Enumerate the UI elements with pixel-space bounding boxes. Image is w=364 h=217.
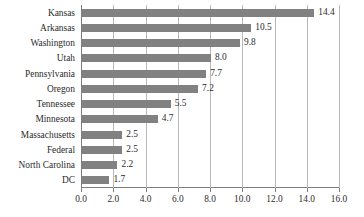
category-label: Arkansas bbox=[0, 23, 75, 33]
category-label: Pennsylvania bbox=[0, 69, 75, 79]
bar bbox=[82, 9, 314, 17]
bar-row: 7.2 bbox=[82, 85, 340, 93]
category-label: Minnesota bbox=[0, 114, 75, 124]
bar-value-label: 2.5 bbox=[126, 129, 138, 140]
bar-row: 1.7 bbox=[82, 176, 340, 184]
bar-value-label: 9.8 bbox=[244, 37, 256, 48]
bar-value-label: 4.7 bbox=[162, 113, 174, 124]
plot-area: 0.02.04.06.08.010.012.014.016.0 14.410.5… bbox=[81, 5, 339, 188]
x-axis-tick bbox=[242, 188, 243, 192]
category-label: North Carolina bbox=[0, 160, 75, 170]
bar-value-label: 7.2 bbox=[202, 83, 214, 94]
bar-row: 10.5 bbox=[82, 24, 340, 32]
x-axis-tick bbox=[178, 188, 179, 192]
bar-row: 4.7 bbox=[82, 115, 340, 123]
bar-value-label: 8.0 bbox=[215, 52, 227, 63]
x-axis-tick bbox=[210, 188, 211, 192]
bar bbox=[82, 131, 122, 139]
bar-value-label: 2.2 bbox=[121, 159, 133, 170]
category-label: Federal bbox=[0, 145, 75, 155]
category-label: Washington bbox=[0, 38, 75, 48]
bar bbox=[82, 85, 198, 93]
x-axis-tick bbox=[339, 188, 340, 192]
bar-chart: KansasArkansasWashingtonUtahPennsylvania… bbox=[0, 0, 364, 217]
bar-row: 7.7 bbox=[82, 70, 340, 78]
x-axis-tick bbox=[146, 188, 147, 192]
bar bbox=[82, 176, 109, 184]
bar bbox=[82, 146, 122, 154]
bar-row: 5.5 bbox=[82, 100, 340, 108]
bar-row: 9.8 bbox=[82, 39, 340, 47]
bar-row: 2.5 bbox=[82, 146, 340, 154]
bar-row: 8.0 bbox=[82, 54, 340, 62]
bar-value-label: 7.7 bbox=[210, 68, 222, 79]
bar-value-label: 14.4 bbox=[318, 7, 334, 18]
bar bbox=[82, 24, 251, 32]
category-label: Kansas bbox=[0, 8, 75, 18]
bar-row: 14.4 bbox=[82, 9, 340, 17]
x-axis-tick-label: 16.0 bbox=[319, 194, 359, 205]
category-label: DC bbox=[0, 175, 75, 185]
bar-value-label: 2.5 bbox=[126, 144, 138, 155]
x-axis-tick bbox=[307, 188, 308, 192]
bar bbox=[82, 161, 117, 169]
bar bbox=[82, 54, 211, 62]
bar-value-label: 10.5 bbox=[255, 22, 271, 33]
x-axis-tick bbox=[81, 188, 82, 192]
bar-row: 2.2 bbox=[82, 161, 340, 169]
bar bbox=[82, 100, 171, 108]
bar bbox=[82, 39, 240, 47]
x-axis-tick bbox=[275, 188, 276, 192]
category-axis-labels: KansasArkansasWashingtonUtahPennsylvania… bbox=[0, 5, 78, 188]
bar bbox=[82, 70, 206, 78]
bar-value-label: 5.5 bbox=[175, 98, 187, 109]
category-label: Massachusetts bbox=[0, 130, 75, 140]
x-axis-tick bbox=[113, 188, 114, 192]
category-label: Oregon bbox=[0, 84, 75, 94]
bar-value-label: 1.7 bbox=[113, 174, 125, 185]
bar bbox=[82, 115, 158, 123]
category-label: Tennessee bbox=[0, 99, 75, 109]
category-label: Utah bbox=[0, 53, 75, 63]
bar-row: 2.5 bbox=[82, 131, 340, 139]
